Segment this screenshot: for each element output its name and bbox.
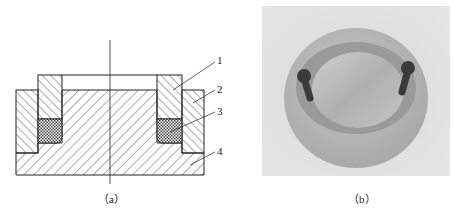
panel-b-photo xyxy=(262,6,450,176)
cross-section-svg xyxy=(0,0,227,214)
label-4: 4 xyxy=(217,145,223,157)
part-1-right xyxy=(157,75,182,119)
photo-svg xyxy=(262,6,450,176)
label-1: 1 xyxy=(217,54,223,66)
part-3-left xyxy=(38,119,62,143)
panel-a-cross-section-drawing: 1 2 3 4 （a） xyxy=(0,0,227,214)
caption-a: （a） xyxy=(98,190,125,206)
label-3: 3 xyxy=(217,105,223,117)
part-1-left xyxy=(38,75,62,119)
label-2: 2 xyxy=(217,83,223,95)
caption-b: （b） xyxy=(348,190,376,206)
part-3-right xyxy=(157,119,182,143)
part-2-left xyxy=(16,90,38,153)
